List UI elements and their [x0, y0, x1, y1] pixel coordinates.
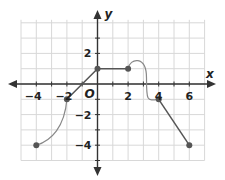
x-tick-label: −4 [25, 90, 42, 103]
y-tick-label: −2 [75, 109, 92, 122]
data-point [186, 142, 192, 148]
x-tick-label: 4 [155, 90, 163, 103]
origin-label: O [85, 87, 95, 101]
data-point [95, 66, 101, 72]
y-tick-label: 2 [84, 47, 92, 60]
function-graph: −4−22462−2−4 x y O [0, 0, 225, 180]
data-point [125, 66, 131, 72]
y-axis-label: y [105, 7, 114, 21]
x-tick-label: 6 [185, 90, 193, 103]
y-axis-up-arrow-icon [94, 10, 102, 19]
x-axis-label: x [205, 67, 215, 81]
x-axis-left-arrow-icon [8, 80, 17, 88]
x-axis-right-arrow-icon [207, 80, 216, 88]
x-tick-label: −2 [55, 90, 72, 103]
y-axis-down-arrow-icon [94, 167, 102, 176]
x-tick-label: 2 [124, 90, 132, 103]
data-point [33, 142, 39, 148]
y-tick-label: −4 [75, 139, 92, 152]
